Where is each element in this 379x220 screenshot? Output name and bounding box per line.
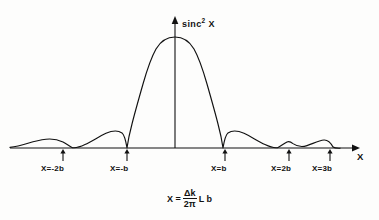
formula-denominator: 2π: [183, 199, 197, 209]
tick-label-b: X=b: [211, 165, 227, 173]
tick-label-3b: X=3b: [312, 165, 332, 173]
y-axis-label: sinc2 X: [182, 20, 215, 29]
tick-marker: [286, 149, 291, 161]
tick-label-minus-2b: X=-2b: [41, 165, 64, 173]
tick-marker: [60, 149, 65, 161]
y-axis-label-fn: sinc: [182, 19, 202, 29]
formula-numerator: Δk: [183, 188, 197, 199]
y-axis-label-var: X: [209, 19, 215, 29]
y-axis-arrowhead: [172, 16, 179, 24]
y-axis: [172, 16, 179, 148]
tick-marker: [222, 149, 227, 161]
formula-lhs: X =: [167, 194, 181, 204]
formula-trailing: L b: [199, 194, 212, 204]
tick-label-2b: X=2b: [271, 165, 291, 173]
tick-marker: [327, 149, 332, 161]
tick-label-minus-b: X=-b: [110, 165, 128, 173]
tick-markers: [60, 149, 332, 161]
tick-marker: [124, 149, 129, 161]
formula-fraction: Δk2π: [183, 188, 197, 210]
caption-formula: X =Δk2πL b: [0, 188, 379, 210]
y-axis-label-exponent: 2: [202, 17, 206, 24]
x-axis-label: X: [357, 152, 364, 162]
sinc-squared-figure: sinc2 X X X=-2b X=-b X=b X=2b X=3b X =Δk…: [0, 0, 379, 220]
